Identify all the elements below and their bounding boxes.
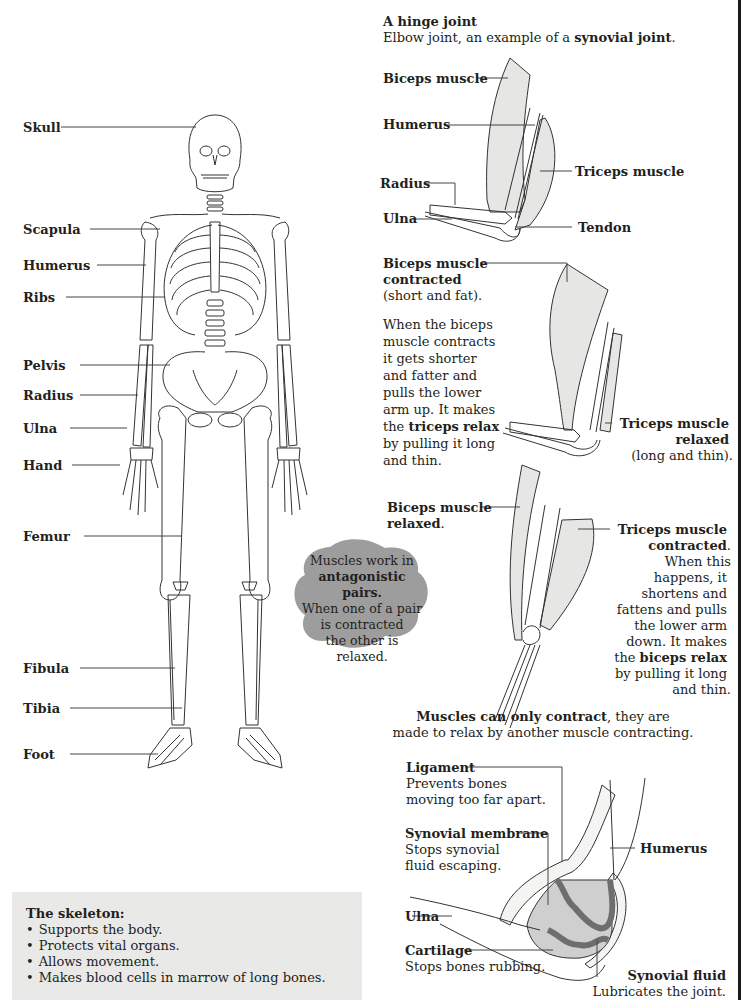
- bold-text: contracted: [648, 538, 727, 553]
- label-ribs: Ribs: [23, 289, 55, 306]
- info-box-list: Supports the body. Protects vital organs…: [26, 922, 348, 986]
- cloud-line: Muscles work in: [300, 553, 424, 569]
- paragraph-text: When the biceps muscle contracts it gets…: [383, 317, 495, 434]
- bold-text: biceps relax: [640, 650, 727, 665]
- subtitle-text: Elbow joint, an example of a: [383, 30, 574, 45]
- relaxed-line: down. It makes: [626, 633, 727, 650]
- label-foot: Foot: [23, 746, 55, 763]
- relaxed-line: by pulling it long: [615, 665, 727, 682]
- synovial-ligament-desc: Prevents bones: [406, 775, 507, 792]
- bold-text: relaxed: [387, 516, 441, 531]
- relaxed-line: and thin.: [672, 681, 731, 698]
- contracted-triceps-label-2: relaxed: [675, 431, 729, 448]
- cloud-line: relaxed.: [300, 649, 424, 665]
- relaxed-triceps-label-2: contracted.: [648, 537, 731, 554]
- synovial-label-ligament: Ligament: [406, 759, 475, 776]
- synovial-label-membrane: Synovial membrane: [405, 825, 548, 842]
- synovial-label-humerus: Humerus: [640, 840, 707, 857]
- relaxed-line: shortens and: [641, 585, 727, 602]
- info-item: Allows movement.: [26, 954, 348, 970]
- label-ulna: Ulna: [23, 420, 57, 437]
- label-humerus: Humerus: [23, 257, 90, 274]
- text: the: [614, 650, 639, 665]
- skeleton-figure: [123, 115, 307, 768]
- relaxed-line: fattens and pulls: [617, 601, 727, 618]
- info-box-title: The skeleton:: [26, 905, 348, 922]
- cloud-line-bold: antagonistic pairs.: [300, 569, 424, 601]
- hinge-label-ulna: Ulna: [383, 210, 417, 227]
- cloud-callout: Muscles work in antagonistic pairs. When…: [300, 553, 424, 665]
- label-tibia: Tibia: [23, 700, 60, 717]
- relaxed-biceps-label: Biceps muscle: [387, 499, 492, 516]
- paragraph-text: by pulling it long and thin.: [383, 436, 495, 468]
- page: Skull Scapula Humerus Ribs Pelvis Radius…: [0, 0, 741, 1000]
- skeleton-info-box: The skeleton: Supports the body. Protect…: [12, 892, 362, 1000]
- relaxed-line: happens, it: [654, 569, 727, 586]
- info-item: Supports the body.: [26, 922, 348, 938]
- synovial-label-cartilage: Cartilage: [405, 942, 472, 959]
- label-scapula: Scapula: [23, 221, 81, 238]
- info-item: Makes blood cells in marrow of long bone…: [26, 970, 348, 986]
- text: .: [441, 516, 445, 531]
- subtitle-bold: synovial joint: [574, 30, 671, 45]
- synovial-label-ulna: Ulna: [405, 908, 439, 925]
- contract-note-line-2: made to relax by another muscle contract…: [360, 724, 726, 741]
- synovial-membrane-desc: fluid escaping.: [405, 857, 501, 874]
- contracted-biceps-note: (short and fat).: [383, 287, 482, 304]
- label-pelvis: Pelvis: [23, 357, 65, 374]
- hinge-subtitle: Elbow joint, an example of a synovial jo…: [383, 29, 676, 46]
- biceps-contracted-figure: [503, 264, 622, 456]
- paragraph-bold: triceps: [408, 419, 458, 434]
- relaxed-line-bold: the biceps relax: [614, 649, 727, 666]
- label-radius: Radius: [23, 387, 73, 404]
- skeleton-leader-lines: [61, 127, 196, 754]
- label-hand: Hand: [23, 457, 62, 474]
- contracted-biceps-label: Biceps muscle: [383, 255, 488, 272]
- contracted-triceps-label: Triceps muscle: [620, 415, 729, 432]
- synovial-fluid-desc: Lubricates the joint.: [592, 983, 726, 1000]
- subtitle-post: .: [671, 30, 675, 45]
- label-fibula: Fibula: [23, 660, 69, 677]
- hinge-title: A hinge joint: [383, 13, 477, 30]
- info-item: Protects vital organs.: [26, 938, 348, 954]
- text: , they are: [607, 709, 670, 724]
- label-skull: Skull: [23, 119, 61, 136]
- cloud-line: is contracted: [300, 617, 424, 633]
- bold-text: Muscles can only contract: [416, 709, 607, 724]
- synovial-cartilage-desc: Stops bones rubbing.: [405, 958, 545, 975]
- text: .: [727, 538, 731, 553]
- hinge-label-radius: Radius: [380, 175, 430, 192]
- label-femur: Femur: [23, 528, 70, 545]
- hinge-label-triceps: Triceps muscle: [575, 163, 684, 180]
- synovial-membrane-desc: Stops synovial: [405, 841, 500, 858]
- relaxed-line: the lower arm: [634, 617, 727, 634]
- paragraph-bold: relax: [463, 419, 499, 434]
- contracted-paragraph: When the biceps muscle contracts it gets…: [383, 316, 505, 469]
- contracted-triceps-note: (long and thin).: [631, 447, 733, 464]
- hinge-label-humerus: Humerus: [383, 116, 450, 133]
- relaxed-biceps-label-2: relaxed.: [387, 515, 445, 532]
- hinge-label-tendon: Tendon: [578, 219, 631, 236]
- biceps-relaxed-figure: [495, 465, 594, 728]
- cloud-line: When one of a pair: [300, 601, 424, 617]
- diagram-artwork: [0, 0, 741, 1000]
- synovial-label-fluid: Synovial fluid: [628, 967, 726, 984]
- relaxed-triceps-label: Triceps muscle: [618, 521, 727, 538]
- hinge-label-biceps: Biceps muscle: [383, 70, 488, 87]
- contract-note-line-1: Muscles can only contract, they are: [360, 708, 726, 725]
- contracted-biceps-label-2: contracted: [383, 271, 462, 288]
- cloud-line: the other is: [300, 633, 424, 649]
- relaxed-line: When this: [665, 553, 731, 570]
- synovial-ligament-desc: moving too far apart.: [406, 791, 546, 808]
